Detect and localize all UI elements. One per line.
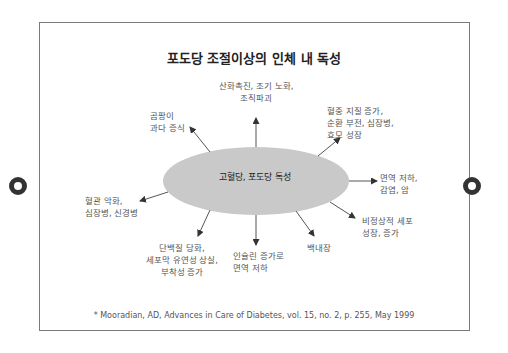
effect-line: 곰팡이 (150, 110, 185, 122)
effect-right: 면역 저하, 감염, 암 (380, 172, 417, 196)
effect-line: 효모 성장 (327, 129, 394, 141)
effect-top: 산화촉진, 조기 노화, 조직파괴 (216, 80, 296, 104)
effect-line: 비정상적 세포 (362, 215, 413, 227)
effect-bottom-right: 백내장 (307, 242, 331, 254)
effect-line: 면역 저하, (380, 172, 417, 184)
effect-line: 성장, 증가 (362, 227, 413, 239)
center-label: 고혈당, 포도당 독성 (205, 170, 305, 183)
effect-bottom-left: 단백질 당화, 세포막 유연성 상실, 부착성 증가 (137, 242, 227, 278)
effect-line: 백내장 (307, 242, 331, 254)
effect-line: 인슐린 증가로 (233, 250, 284, 262)
effect-line: 세포막 유연성 상실, (137, 254, 227, 266)
effect-line: 면역 저하 (233, 262, 284, 274)
effect-line: 단백질 당화, (137, 242, 227, 254)
effect-line: 감염, 암 (380, 184, 417, 196)
citation: * Mooradian, AD, Advances in Care of Dia… (0, 311, 508, 320)
effect-line: 혈중 지질 증가, (327, 105, 394, 117)
effect-top-right: 혈중 지질 증가, 순환 부전, 심장병, 효모 성장 (327, 105, 394, 141)
effect-left: 혈관 악화, 심장병, 신경병 (85, 195, 138, 219)
effect-line: 조직파괴 (216, 92, 296, 104)
effect-lower-right: 비정상적 세포 성장, 증가 (362, 215, 413, 239)
effect-bottom: 인슐린 증가로 면역 저하 (233, 250, 284, 274)
diagram-title: 포도당 조절이상의 인체 내 독성 (0, 48, 508, 67)
effect-line: 부착성 증가 (137, 266, 227, 278)
effect-line: 산화촉진, 조기 노화, (216, 80, 296, 92)
effect-line: 순환 부전, 심장병, (327, 117, 394, 129)
effect-top-left: 곰팡이 과다 증식 (150, 110, 185, 134)
effect-line: 혈관 악화, (85, 195, 138, 207)
effect-line: 심장병, 신경병 (85, 207, 138, 219)
effect-line: 과다 증식 (150, 122, 185, 134)
